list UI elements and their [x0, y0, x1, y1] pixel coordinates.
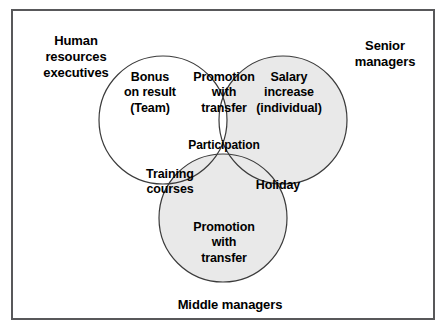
region-label-holiday: Holiday — [247, 178, 309, 193]
region-label-training-courses: Training courses — [134, 167, 206, 198]
region-label-participation: Participation — [180, 138, 268, 153]
external-label-senior-managers: Senior managers — [332, 38, 438, 70]
venn-diagram-canvas: Human resources executives Senior manage… — [0, 0, 447, 331]
region-label-promotion-with-transfer-bottom: Promotion with transfer — [184, 220, 264, 266]
external-label-middle-managers: Middle managers — [150, 297, 310, 313]
region-label-bonus-on-result: Bonus on result (Team) — [107, 70, 193, 116]
region-label-promotion-with-transfer-top: Promotion with transfer — [184, 70, 264, 116]
